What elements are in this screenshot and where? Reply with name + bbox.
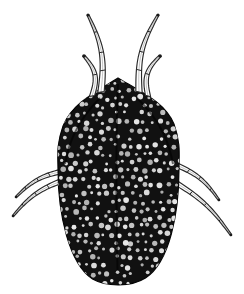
punctation-dot — [152, 168, 156, 172]
punctation-dot — [167, 218, 171, 222]
punctation-dot — [136, 144, 141, 149]
punctation-dot — [171, 145, 176, 150]
punctation-dot — [152, 241, 157, 246]
punctation-dot — [82, 224, 85, 227]
punctation-dot — [155, 210, 158, 213]
palp-right-tip — [158, 54, 162, 58]
punctation-dot — [92, 176, 96, 180]
punctation-dot — [84, 102, 88, 106]
punctation-dot — [140, 223, 144, 227]
punctation-dot — [121, 175, 124, 178]
punctation-dot — [142, 137, 146, 141]
punctation-dot — [145, 128, 149, 132]
punctation-dot — [141, 202, 145, 206]
punctation-dot — [141, 263, 144, 266]
punctation-dot — [175, 183, 178, 186]
punctation-dot — [149, 104, 153, 108]
punctation-dot — [104, 168, 108, 172]
punctation-dot — [97, 192, 101, 196]
punctation-dot — [101, 106, 104, 109]
punctation-dot — [105, 163, 108, 166]
punctation-dot — [118, 199, 121, 202]
punctation-dot — [149, 152, 153, 156]
punctation-dot — [94, 150, 100, 156]
punctation-dot — [95, 104, 99, 108]
punctation-dot — [60, 193, 65, 198]
punctation-dot — [81, 177, 85, 181]
punctation-dot — [99, 130, 104, 135]
punctation-dot — [90, 254, 95, 259]
palp-left-tip — [82, 54, 86, 58]
punctation-dot — [66, 177, 71, 182]
punctation-dot — [123, 197, 129, 203]
punctation-dot — [101, 137, 106, 142]
punctation-dot — [105, 224, 111, 230]
punctation-dot — [96, 216, 100, 220]
punctation-dot — [101, 233, 104, 236]
punctation-dot — [153, 224, 158, 229]
punctation-dot — [83, 161, 88, 166]
punctation-dot — [97, 111, 102, 116]
punctation-dot — [128, 255, 133, 260]
mite-illustration-canvas — [0, 0, 244, 294]
punctation-dot — [137, 158, 142, 163]
punctation-dot — [109, 233, 114, 238]
punctation-dot — [129, 145, 133, 149]
leg-III-left-tip — [15, 196, 18, 199]
punctation-dot — [94, 233, 100, 239]
punctation-dot — [121, 95, 124, 98]
punctation-dot — [104, 191, 109, 196]
punctation-dot — [159, 248, 164, 253]
punctation-dot — [164, 129, 168, 133]
punctation-dot — [158, 150, 163, 155]
punctation-dot — [124, 119, 129, 124]
punctation-dot — [130, 160, 135, 165]
punctation-dot — [113, 82, 116, 85]
punctation-dot — [145, 256, 149, 260]
punctation-dot — [158, 118, 163, 123]
punctation-dot — [125, 151, 130, 156]
punctation-dot — [78, 202, 81, 205]
punctation-dot — [60, 159, 63, 162]
punctation-dot — [68, 166, 74, 172]
punctation-dot — [165, 230, 171, 236]
punctation-dot — [136, 248, 140, 252]
punctation-dot — [90, 191, 93, 194]
punctation-dot — [81, 191, 86, 196]
punctation-dot — [158, 230, 163, 235]
punctation-dot — [118, 217, 122, 221]
punctation-dot — [172, 199, 177, 204]
punctation-dot — [127, 88, 132, 93]
punctation-dot — [109, 168, 112, 171]
punctation-dot — [171, 175, 175, 179]
punctation-dot — [121, 160, 124, 163]
punctation-dot — [123, 225, 128, 230]
punctation-dot — [129, 272, 132, 275]
punctation-dot — [75, 254, 79, 258]
punctation-dot — [145, 241, 148, 244]
punctation-dot — [160, 239, 164, 243]
punctation-dot — [135, 153, 138, 156]
punctation-dot — [85, 216, 89, 220]
punctation-dot — [127, 247, 131, 251]
punctation-dot — [84, 200, 89, 205]
punctation-dot — [102, 247, 105, 250]
punctation-dot — [142, 233, 145, 236]
punctation-dot — [101, 263, 106, 268]
punctation-dot — [73, 177, 78, 182]
punctation-dot — [151, 264, 154, 267]
punctation-dot — [144, 175, 148, 179]
punctation-dot — [101, 122, 104, 125]
punctation-dot — [139, 210, 143, 214]
punctation-dot — [91, 273, 96, 278]
punctation-dot — [161, 223, 166, 228]
punctation-dot — [88, 135, 92, 139]
punctation-dot — [80, 145, 85, 150]
punctation-dot — [157, 215, 162, 220]
punctation-dot — [147, 160, 152, 165]
punctation-dot — [93, 169, 98, 174]
punctation-dot — [132, 97, 137, 102]
punctation-dot — [167, 135, 170, 138]
punctation-dot — [62, 152, 66, 156]
punctation-dot — [110, 87, 114, 91]
